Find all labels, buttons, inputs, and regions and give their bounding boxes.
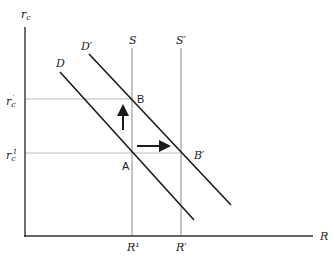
- x-tick-r1: R¹: [127, 242, 140, 253]
- supply-label: S: [129, 35, 137, 46]
- point-b-label: B: [137, 94, 144, 105]
- supply-shifted-label: S′: [176, 35, 186, 46]
- demand-shifted-label: D′: [81, 41, 92, 52]
- diagram-svg: [0, 0, 334, 261]
- diagram-canvas: rc R D D′ S S′ rc′ rc1 R¹ R′ B A B′: [0, 0, 334, 261]
- y-tick-rc-1: rc1: [6, 149, 17, 163]
- y-tick-rc-prime: rc′: [6, 95, 14, 109]
- x-tick-r-prime: R′: [176, 242, 187, 253]
- point-b-prime-label: B′: [194, 150, 205, 161]
- demand-label: D: [56, 58, 65, 69]
- y-axis-label: rc: [21, 9, 31, 22]
- point-a-label: A: [122, 161, 129, 172]
- x-axis-label: R: [320, 231, 328, 242]
